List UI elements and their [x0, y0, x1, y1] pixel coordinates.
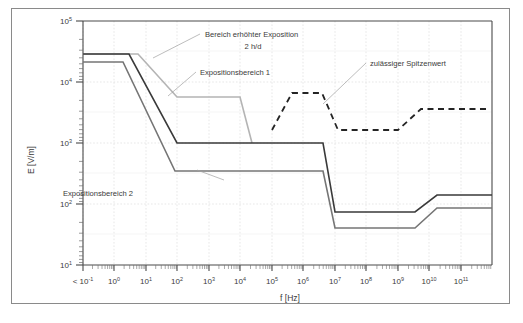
series-expositionsbereich-1	[83, 54, 492, 212]
svg-text:100: 100	[108, 276, 120, 286]
svg-text:105: 105	[266, 276, 278, 286]
svg-text:108: 108	[360, 276, 372, 286]
y-axis-tick-labels: 105 104 103 102 101	[60, 16, 72, 270]
svg-text:101: 101	[140, 276, 152, 286]
annotation-leader-lines	[153, 34, 366, 180]
series-expositionsbereich-2	[83, 62, 492, 228]
svg-text:104: 104	[234, 276, 246, 286]
svg-text:103: 103	[60, 138, 72, 148]
svg-text:104: 104	[60, 77, 72, 87]
svg-text:109: 109	[392, 276, 404, 286]
x-axis-minor-ticks	[93, 265, 491, 269]
svg-text:106: 106	[297, 276, 309, 286]
annotation-zulaessiger-spitzenwert: zulässiger Spitzenwert	[370, 59, 447, 68]
x-axis-title: f [Hz]	[280, 293, 300, 303]
svg-text:107: 107	[329, 276, 341, 286]
series-zulaessiger-spitzenwert	[272, 93, 486, 130]
annotation-expositionsbereich-2: Expositionsbereich 2	[63, 189, 133, 198]
chart-canvas: 105 104 103 102 101 E [V/m] < 10-1 100 1…	[0, 0, 523, 323]
svg-text:101: 101	[60, 260, 72, 270]
x-axis-major-ticks	[83, 265, 461, 271]
svg-text:105: 105	[60, 16, 72, 26]
svg-text:102: 102	[171, 276, 183, 286]
svg-text:103: 103	[203, 276, 215, 286]
svg-text:102: 102	[60, 199, 72, 209]
figure-page: 105 104 103 102 101 E [V/m] < 10-1 100 1…	[0, 0, 523, 323]
x-axis-tick-labels: < 10-1 100 101 102 103 104 105 106 107 1…	[73, 276, 469, 286]
y-axis-minor-ticks	[79, 39, 83, 262]
annotation-bereich-erhoehter-exposition-line1: Bereich erhöhter Exposition	[205, 30, 298, 39]
svg-text:< 10-1: < 10-1	[73, 276, 94, 286]
annotation-expositionsbereich-1: Expositionsbereich 1	[200, 68, 270, 77]
svg-text:1011: 1011	[454, 276, 469, 286]
annotation-bereich-erhoehter-exposition-line2: 2 h/d	[245, 42, 262, 51]
svg-text:1010: 1010	[422, 276, 437, 286]
y-axis-title: E [V/m]	[26, 146, 36, 174]
